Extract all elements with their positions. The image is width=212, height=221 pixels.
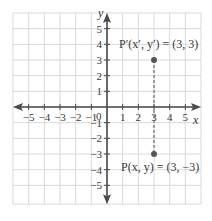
y-tick-label: 1 [97,85,103,97]
point-p [151,151,157,157]
y-tick-label: 3 [97,54,103,66]
point-p-label: P(x, y) = (3, −3) [121,160,199,174]
x-tick-label: −5 [23,111,35,123]
x-axis-label: x [192,113,199,127]
origin-label: 0 [96,110,102,122]
point-p-prime [151,57,157,63]
x-tick-label: 2 [136,111,142,123]
x-tick-label: −3 [54,111,66,123]
x-tick-label: 1 [120,111,126,123]
x-tick-label: 5 [183,111,189,123]
y-tick-label: 4 [97,38,103,50]
y-tick-label: −4 [90,164,102,176]
y-axis-label: y [97,6,104,20]
y-tick-label: 2 [97,70,103,82]
x-tick-label: 4 [167,111,173,123]
point-p-prime-label: P′(x′, y′) = (3, 3) [119,37,198,51]
y-tick-label: −2 [90,132,102,144]
y-tick-label: −5 [90,179,102,191]
x-tick-label: −2 [70,111,82,123]
y-tick-label: −3 [90,148,102,160]
coordinate-plane: −5−4−3−2−11234554321−1−2−3−4−5 x y 0 P′(… [0,0,212,221]
x-tick-label: −4 [38,111,50,123]
y-tick-label: 5 [97,23,103,35]
